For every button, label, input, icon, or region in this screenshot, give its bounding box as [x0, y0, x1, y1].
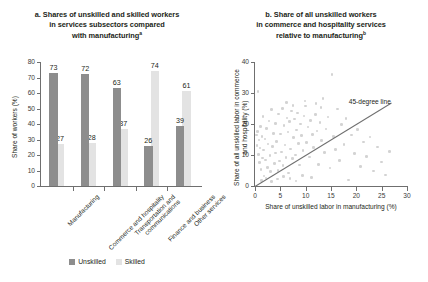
bar-value-label-unskilled: 73: [46, 64, 61, 72]
panel-b-x-axis-title: Share of unskilled labor in manufacturin…: [265, 203, 397, 211]
bar-unskilled: [144, 146, 153, 186]
scatter-point: [269, 170, 272, 173]
scatter-point: [258, 161, 261, 164]
scatter-point: [272, 132, 275, 135]
x-tick-label: 25: [375, 192, 389, 199]
scatter-point: [258, 139, 261, 142]
panel-b-title-line1: b. Share of all unskilled workers: [265, 10, 376, 19]
scatter-point: [322, 97, 325, 100]
panel-a-title-line1: a. Shares of unskilled and skilled worke…: [35, 10, 180, 19]
scatter-point: [365, 155, 368, 158]
scatter-point: [329, 167, 332, 170]
scatter-point: [311, 133, 314, 136]
scatter-point: [380, 161, 383, 164]
scatter-point: [262, 149, 265, 152]
scatter-point: [299, 123, 302, 126]
scatter-point: [316, 130, 319, 133]
legend-item-unskilled: Unskilled: [69, 258, 106, 265]
scatter-point: [269, 154, 272, 157]
scatter-point: [294, 154, 297, 157]
scatter-point: [307, 126, 310, 129]
scatter-point: [320, 139, 323, 142]
x-tick-label: 0: [248, 192, 262, 199]
x-tick-label: 10: [299, 192, 313, 199]
panel-b-scatter-chart: b. Share of all unskilled workers in com…: [214, 0, 428, 282]
x-tick-label: 5: [273, 192, 287, 199]
scatter-point: [362, 141, 365, 144]
scatter-point: [268, 120, 271, 123]
scatter-point: [345, 117, 348, 120]
scatter-point: [325, 128, 328, 131]
y-tick-label: 0: [31, 182, 35, 189]
scatter-point: [276, 178, 279, 181]
bar-value-label-unskilled: 63: [110, 79, 125, 87]
panel-a-title-line2: in services subsectors compared: [49, 20, 165, 29]
scatter-point: [273, 162, 276, 165]
x-tick-label: 30: [400, 192, 414, 199]
scatter-point: [388, 150, 391, 153]
scatter-point: [256, 130, 259, 133]
panel-b-title: b. Share of all unskilled workers in com…: [214, 10, 428, 41]
scatter-point: [284, 144, 287, 147]
scatter-point: [255, 134, 258, 137]
scatter-point: [295, 180, 298, 183]
scatter-point: [287, 172, 290, 175]
bar-unskilled: [49, 73, 58, 186]
y-tick-label: 60: [28, 89, 35, 96]
scatter-point: [334, 148, 337, 151]
panel-a-title: a. Shares of unskilled and skilled worke…: [0, 10, 214, 41]
scatter-point: [297, 142, 300, 145]
x-tick-label: 20: [349, 192, 363, 199]
scatter-point: [281, 107, 284, 110]
scatter-point: [372, 170, 375, 173]
y-tick-label: 80: [28, 58, 35, 65]
legend-label-skilled: Skilled: [125, 258, 145, 265]
scatter-point: [300, 134, 303, 137]
scatter-point: [271, 145, 274, 148]
scatter-point: [296, 112, 299, 115]
scatter-point: [257, 90, 260, 93]
scatter-point: [323, 151, 326, 154]
scatter-point: [292, 136, 295, 139]
panel-b-title-line3: relative to manufacturing: [276, 32, 363, 41]
panel-a-y-axis-title: Share of workers (%): [11, 96, 19, 158]
scatter-point: [314, 113, 317, 116]
scatter-point: [257, 153, 260, 156]
reference-line-45-degree: [255, 102, 392, 187]
scatter-point: [292, 104, 295, 107]
scatter-point: [320, 106, 323, 109]
panel-b-plot-area: 010203040051015202530Share of unskilled …: [255, 62, 407, 186]
scatter-point: [347, 179, 350, 182]
bar-unskilled: [81, 74, 90, 186]
legend-swatch-skilled: [116, 259, 122, 265]
scatter-point: [277, 113, 280, 116]
scatter-point: [259, 147, 262, 150]
scatter-point: [270, 180, 273, 183]
scatter-point: [356, 128, 359, 131]
scatter-point: [289, 177, 292, 180]
scatter-point: [270, 108, 273, 111]
scatter-point: [301, 174, 304, 177]
scatter-point: [298, 164, 301, 167]
scatter-point: [262, 115, 265, 118]
panel-b-y-axis-title: Share of all unskilled labor in commerce…: [233, 69, 249, 186]
scatter-point: [278, 160, 281, 163]
scatter-point: [282, 164, 285, 167]
scatter-point: [310, 176, 313, 179]
scatter-point: [376, 146, 379, 149]
bar-value-label-skilled: 61: [179, 82, 194, 90]
scatter-point: [350, 134, 353, 137]
scatter-point: [264, 138, 267, 141]
scatter-point: [266, 166, 269, 169]
reference-line-annotation: 45-degree line: [349, 98, 391, 105]
panel-b-title-footnote: b: [363, 30, 366, 36]
bar-value-label-skilled: 74: [148, 62, 163, 70]
scatter-point: [279, 133, 282, 136]
scatter-point: [309, 119, 312, 122]
scatter-point: [353, 152, 356, 155]
panel-a-title-line3: with manufacturing: [72, 32, 139, 41]
scatter-point: [256, 144, 259, 147]
scatter-point: [267, 143, 270, 146]
bar-unskilled: [113, 88, 122, 186]
bar-value-label-unskilled: 72: [78, 65, 93, 73]
